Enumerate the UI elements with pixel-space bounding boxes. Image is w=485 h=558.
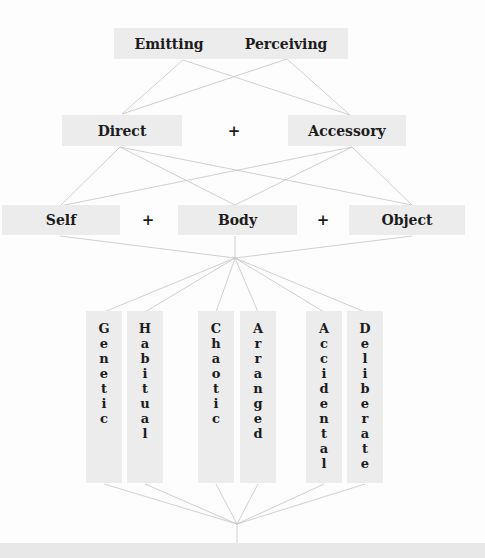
node-self-label: Self [46,212,76,228]
column-letter: C [211,321,221,336]
column-letter: e [361,396,369,411]
column-letter: d [319,381,328,396]
plus-operator: + [142,211,155,229]
column-letter: t [213,381,219,396]
column-letter: i [322,366,327,381]
column-letter: n [253,381,262,396]
node-body-label: Body [218,212,257,228]
column-letter: b [140,351,149,366]
column-letter: a [212,351,220,366]
column-letter: d [253,426,262,441]
node-self: Self [2,205,120,235]
column-letter: g [253,396,262,411]
node-accessory: Accessory [288,115,406,146]
column-letter: i [102,396,107,411]
column-letter: l [143,426,148,441]
column-letter: u [140,396,149,411]
node-emitting: Emitting [135,36,204,52]
node-direct-label: Direct [98,123,147,139]
column-letter: e [254,411,262,426]
plus-operator: + [228,122,241,140]
column-letter: h [211,336,220,351]
column-letter: r [255,351,262,366]
column-genetic: Genetic [86,311,122,483]
column-letter: G [98,321,109,336]
column-letter: D [359,321,370,336]
column-letter: t [321,426,327,441]
column-letter: n [319,411,328,426]
column-letter: l [322,456,327,471]
column-letter: H [139,321,151,336]
column-chaotic: Chaotic [198,311,234,483]
column-letter: n [99,351,108,366]
column-letter: r [255,336,262,351]
column-letter: e [100,336,108,351]
node-accessory-label: Accessory [308,123,385,139]
column-letter: A [253,321,263,336]
column-letter: i [363,366,368,381]
node-direct: Direct [62,115,182,146]
column-letter: r [362,411,369,426]
column-letter: l [363,351,368,366]
column-letter: c [100,411,108,426]
column-letter: t [101,381,107,396]
column-letter: a [320,441,328,456]
column-letter: a [254,366,262,381]
column-letter: t [142,381,148,396]
column-arranged: Arranged [240,311,276,483]
node-object: Object [349,205,465,235]
column-accidental: Accidental [306,311,342,483]
column-letter: e [320,396,328,411]
column-letter: c [320,336,328,351]
column-letter: c [212,411,220,426]
column-letter: i [143,366,148,381]
node-perceiving: Perceiving [245,36,328,52]
column-letter: e [361,336,369,351]
column-letter: a [141,411,149,426]
node-object-label: Object [382,212,433,228]
column-letter: c [320,351,328,366]
plus-operator: + [317,211,330,229]
column-letter: a [141,336,149,351]
column-letter: i [214,396,219,411]
column-letter: e [100,366,108,381]
column-habitual: Habitual [127,311,163,483]
column-letter: b [360,381,369,396]
column-letter: e [361,456,369,471]
column-letter: A [319,321,329,336]
column-letter: o [212,366,221,381]
bottom-bar [0,543,485,558]
column-letter: t [362,441,368,456]
column-letter: a [361,426,369,441]
column-deliberate: Deliberate [347,311,383,483]
level1-box: Emitting Perceiving [114,28,348,59]
node-body: Body [178,205,297,235]
